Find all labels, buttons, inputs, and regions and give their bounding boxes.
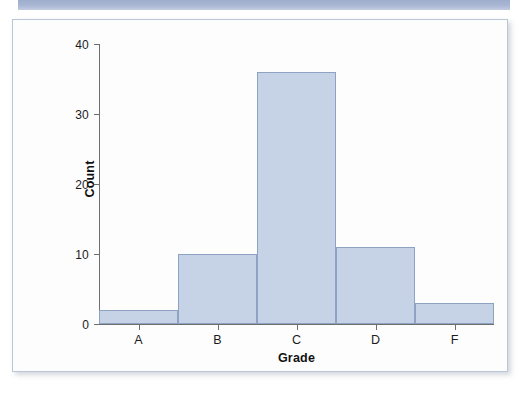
figure-container: 010203040 ABCDF Count Grade bbox=[12, 19, 508, 372]
x-tick-label-B: B bbox=[213, 333, 221, 347]
x-tick-D bbox=[376, 325, 377, 330]
bar-C bbox=[257, 72, 336, 324]
y-tick-10: 10 bbox=[94, 254, 99, 255]
top-decorative-band bbox=[18, 0, 510, 10]
x-tick-C bbox=[297, 325, 298, 330]
y-tick-label: 0 bbox=[82, 318, 89, 332]
x-tick-B bbox=[218, 325, 219, 330]
bar-F bbox=[415, 303, 494, 324]
x-tick-label-F: F bbox=[451, 333, 459, 347]
bar-D bbox=[336, 247, 415, 324]
y-tick-label: 10 bbox=[75, 248, 89, 262]
x-tick-label-D: D bbox=[371, 333, 380, 347]
y-axis-title: Count bbox=[83, 160, 97, 197]
bar-B bbox=[178, 254, 257, 324]
y-tick-30: 30 bbox=[94, 114, 99, 115]
y-axis-line bbox=[99, 44, 100, 325]
x-tick-label-C: C bbox=[292, 333, 301, 347]
x-tick-A bbox=[139, 325, 140, 330]
y-tick-label: 40 bbox=[75, 38, 89, 52]
x-tick-F bbox=[455, 325, 456, 330]
histogram-plot: 010203040 ABCDF Count Grade bbox=[13, 20, 509, 373]
y-tick-0: 0 bbox=[94, 324, 99, 325]
bar-A bbox=[99, 310, 178, 324]
x-tick-label-A: A bbox=[134, 333, 142, 347]
y-tick-40: 40 bbox=[94, 44, 99, 45]
x-axis-title: Grade bbox=[99, 351, 494, 365]
y-tick-label: 30 bbox=[75, 108, 89, 122]
